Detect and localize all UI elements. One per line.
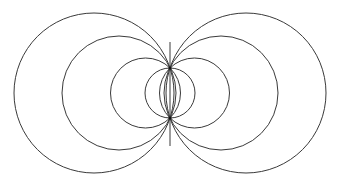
circle-right-middle xyxy=(164,36,278,150)
coaxial-circles-diagram xyxy=(0,0,341,184)
circle-right-outer xyxy=(166,13,326,173)
diagram-canvas xyxy=(0,0,341,184)
circle-left-outer xyxy=(14,13,174,173)
focal-point-2 xyxy=(168,116,171,119)
circle-left-middle xyxy=(62,36,176,150)
focal-point-1 xyxy=(168,66,171,69)
